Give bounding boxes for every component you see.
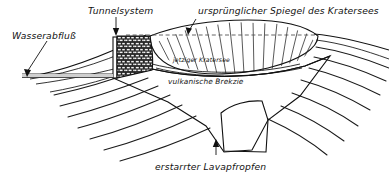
tunnel-shaft [113, 37, 117, 78]
label-wasserabfluss: Wasserabfluß [12, 30, 76, 41]
label-erstarrter-lavapfropfen: erstarrter Lavapfropfen [155, 161, 266, 172]
sedimentary-strata [22, 34, 389, 161]
tunnel-rubble-fill [117, 36, 153, 78]
tunnel-outflow-channel [22, 74, 113, 77]
lava-plug [221, 101, 268, 152]
label-vulkanische-brekzie: vulkanische Brekzie [168, 77, 244, 86]
figure-canvas: Wasserabfluß Tunnelsystem ursprünglicher… [0, 0, 389, 177]
tunnelsystem-arrowhead [113, 28, 119, 36]
crater-cross-section-diagram: Wasserabfluß Tunnelsystem ursprünglicher… [0, 0, 389, 177]
tunnel-system [22, 36, 153, 78]
label-urspruenglicher-spiegel: ursprünglicher Spiegel des Kratersees [198, 5, 379, 16]
label-tunnelsystem: Tunnelsystem [88, 5, 153, 16]
label-jetziger-kratersee: jetziger Kratersee [172, 56, 230, 64]
